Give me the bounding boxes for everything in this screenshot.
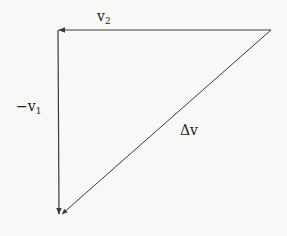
label-neg-v1: −v1 <box>16 98 41 116</box>
label-neg-v1-subscript: 1 <box>36 106 42 116</box>
label-v2-subscript: 2 <box>105 16 111 26</box>
label-delta-v-text: Δv <box>180 122 198 138</box>
label-v2-text: v <box>97 8 105 24</box>
label-neg-v1-text: −v <box>16 98 36 114</box>
vector-triangle-diagram <box>0 0 287 236</box>
vector-neg-v1-arrow <box>58 30 59 214</box>
vector-delta-v-arrow <box>62 30 271 214</box>
label-v2: v2 <box>97 8 111 26</box>
label-delta-v: Δv <box>180 122 198 138</box>
